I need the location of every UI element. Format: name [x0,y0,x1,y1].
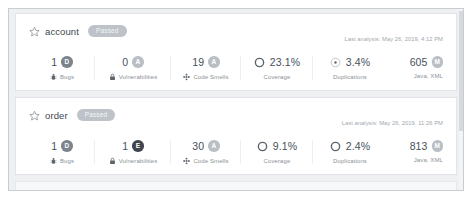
metric-duplications[interactable]: 3.4% Duplications [313,55,387,81]
code-smells-rating: A [208,56,220,68]
code-smells-count[interactable]: 19 [192,56,204,68]
quality-gate-badge: Passed [88,25,127,38]
project-name-link[interactable]: account [45,26,79,37]
duplications-donut-icon [330,57,341,68]
metric-code-smells[interactable]: 30 A Code Sme [171,139,241,165]
projects-viewport[interactable]: account Passed Last analysis: May 26, 20… [8,8,464,191]
bug-icon [50,157,57,165]
project-languages: Java, XML [410,72,443,81]
last-analysis-date: Last analysis: May 26, 2019, 4:12 PM [345,36,443,42]
lock-icon [109,157,116,165]
code-smells-label: Code Smells [193,74,228,80]
metric-coverage[interactable]: 23.1% Coverage [241,55,313,81]
vulnerabilities-count[interactable]: 1 [122,140,128,152]
vulnerabilities-count[interactable]: 0 [122,56,128,68]
bugs-rating: D [61,140,73,152]
project-list: account Passed Last analysis: May 26, 20… [9,9,463,191]
code-smell-icon [183,73,190,81]
project-card-partial[interactable] [15,181,457,191]
coverage-value[interactable]: 9.1% [273,140,297,152]
project-name-link[interactable]: order [45,110,68,121]
coverage-label: Coverage [264,74,291,80]
duplications-label: Duplications [333,74,367,80]
vulnerabilities-rating: A [132,56,144,68]
bugs-label: Bugs [60,158,74,164]
lines-of-code-value[interactable]: 813 [410,140,428,152]
last-analysis-date: Last analysis: May 26, 2019, 11:26 PM [342,120,443,126]
size-rating-icon: M [432,140,444,152]
project-languages: Java, XML [410,156,443,165]
code-smells-rating: A [208,140,220,152]
project-measures: 1 D [29,139,444,165]
metric-coverage[interactable]: 9.1% Coverage [241,139,313,165]
duplications-value[interactable]: 2.4% [346,140,370,152]
project-measures: 1 D [29,55,444,81]
lock-icon [109,73,116,81]
project-card[interactable]: account Passed Last analysis: May 26, 20… [15,13,457,91]
duplications-label: Duplications [333,158,367,164]
bugs-rating: D [61,56,73,68]
metric-bugs[interactable]: 1 D [29,139,95,165]
bugs-count[interactable]: 1 [51,140,57,152]
coverage-value[interactable]: 23.1% [270,56,300,68]
coverage-donut-icon [257,141,268,152]
bugs-count[interactable]: 1 [51,56,57,68]
metric-vulnerabilities[interactable]: 1 E Vulnerabilities [95,139,171,165]
vulnerabilities-rating: E [132,140,144,152]
bug-icon [50,73,57,81]
lines-of-code: 813 M Java, XML [410,139,444,165]
project-card[interactable]: order Passed Last analysis: May 26, 2019… [15,97,457,175]
scrollbar-track[interactable] [459,9,463,190]
coverage-donut-icon [254,57,265,68]
vulnerabilities-label: Vulnerabilities [119,158,158,164]
lines-of-code: 605 M Java, XML [410,55,444,81]
metric-code-smells[interactable]: 19 A Code Sme [171,55,241,81]
metric-bugs[interactable]: 1 D [29,55,95,81]
code-smells-count[interactable]: 30 [192,140,204,152]
star-icon[interactable] [29,26,40,37]
bugs-label: Bugs [60,74,74,80]
quality-gate-badge: Passed [77,109,116,122]
vulnerabilities-label: Vulnerabilities [119,74,158,80]
duplications-donut-icon [330,141,341,152]
scrollbar-thumb[interactable] [459,11,463,131]
metric-vulnerabilities[interactable]: 0 A Vulnerabilities [95,55,171,81]
lines-of-code-value[interactable]: 605 [410,56,428,68]
metric-duplications[interactable]: 2.4% Duplications [313,139,387,165]
size-rating-icon: M [432,56,444,68]
duplications-value[interactable]: 3.4% [346,56,370,68]
code-smells-label: Code Smells [193,158,228,164]
code-smell-icon [183,157,190,165]
star-icon[interactable] [29,110,40,121]
coverage-label: Coverage [264,158,291,164]
